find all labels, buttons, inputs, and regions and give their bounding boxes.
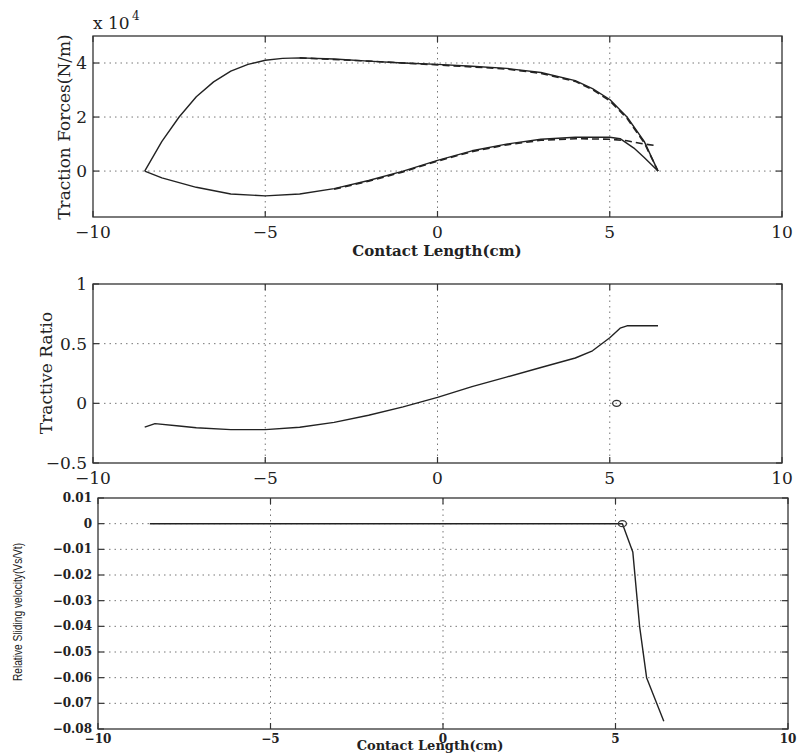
y-multiplier: x 10 xyxy=(93,13,130,33)
y-tick-label: −0.03 xyxy=(53,594,92,608)
tractive-ratio-plot: −10−50510 −0.500.51 Tractive Ratio xyxy=(36,274,793,488)
grid-lines xyxy=(98,498,788,729)
x-tick-label: 5 xyxy=(604,222,615,242)
y-tick-labels: 024 xyxy=(76,53,87,181)
y-tick-label: −0.04 xyxy=(53,619,92,633)
series-velocity xyxy=(150,524,664,722)
y-tick-label: 0 xyxy=(76,393,87,413)
grid-lines xyxy=(93,36,782,217)
x-tick-label: −5 xyxy=(261,732,279,746)
x-axis-label: Contact Length(cm) xyxy=(352,242,521,260)
x-tick-label: 10 xyxy=(771,468,793,488)
data-series xyxy=(150,521,664,722)
x-tick-label: 5 xyxy=(604,468,615,488)
y-tick-label: −0.02 xyxy=(53,568,92,582)
data-series xyxy=(145,326,658,430)
axes-frame xyxy=(93,36,782,217)
series-lower-solid xyxy=(145,137,658,196)
y-tick-label: −0.06 xyxy=(53,671,92,685)
x-tick-labels: −10−50510 xyxy=(75,222,793,242)
figure: −10−50510 024 Contact Length(cm) Tractio… xyxy=(0,0,806,756)
y-multiplier-exponent: 4 xyxy=(132,9,140,23)
traction-forces-plot: −10−50510 024 Contact Length(cm) Tractio… xyxy=(54,9,793,260)
data-series xyxy=(145,58,658,196)
series-upper-dashed xyxy=(300,58,658,171)
x-axis-label: Contact Length(cm) xyxy=(357,738,504,753)
x-tick-label: −5 xyxy=(253,222,278,242)
x-tick-label: 5 xyxy=(611,732,619,746)
y-tick-label: −0.07 xyxy=(53,696,92,710)
y-tick-label: 4 xyxy=(76,53,87,73)
y-axis-label: Relative Sliding velocity(Vs/Vt) xyxy=(11,543,24,681)
y-tick-label: 0.5 xyxy=(60,334,87,354)
grid-lines xyxy=(93,284,782,463)
y-tick-label: −0.08 xyxy=(53,722,92,736)
y-tick-label: 0 xyxy=(76,161,87,181)
x-tick-label: 0 xyxy=(432,222,443,242)
sliding-velocity-plot: −10−50510 0.010−0.01−0.02−0.03−0.04−0.05… xyxy=(11,491,796,753)
y-tick-labels: 0.010−0.01−0.02−0.03−0.04−0.05−0.06−0.07… xyxy=(53,491,92,736)
x-tick-label: 10 xyxy=(780,732,797,746)
y-tick-label: −0.01 xyxy=(53,542,92,556)
y-tick-label: 0 xyxy=(84,517,92,531)
y-tick-label: −0.05 xyxy=(53,645,92,659)
y-axis-label: Tractive Ratio xyxy=(36,312,56,434)
y-tick-label: 2 xyxy=(76,107,87,127)
x-tick-label: −10 xyxy=(75,222,111,242)
x-tick-labels: −10−50510 xyxy=(75,468,793,488)
y-tick-label: 0.01 xyxy=(63,491,92,505)
tick-marks xyxy=(93,36,782,217)
series-ratio xyxy=(145,326,658,430)
y-axis-label: Traction Forces(N/m) xyxy=(54,34,74,220)
x-tick-label: 10 xyxy=(771,222,793,242)
x-tick-label: −5 xyxy=(253,468,278,488)
y-tick-label: 1 xyxy=(76,274,87,294)
series-upper-solid xyxy=(145,58,658,171)
y-tick-label: −0.5 xyxy=(46,453,87,473)
x-tick-label: 0 xyxy=(432,468,443,488)
